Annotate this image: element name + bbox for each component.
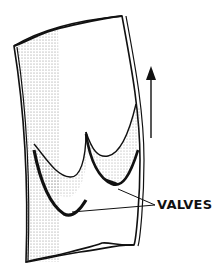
flow-direction-arrow-icon — [146, 66, 156, 138]
vein-valve-diagram: VALVES — [0, 0, 224, 277]
valves-label: VALVES — [157, 197, 212, 212]
vein-shaded-wall — [16, 29, 60, 262]
vein-illustration — [0, 0, 224, 277]
valve-right — [86, 104, 140, 185]
